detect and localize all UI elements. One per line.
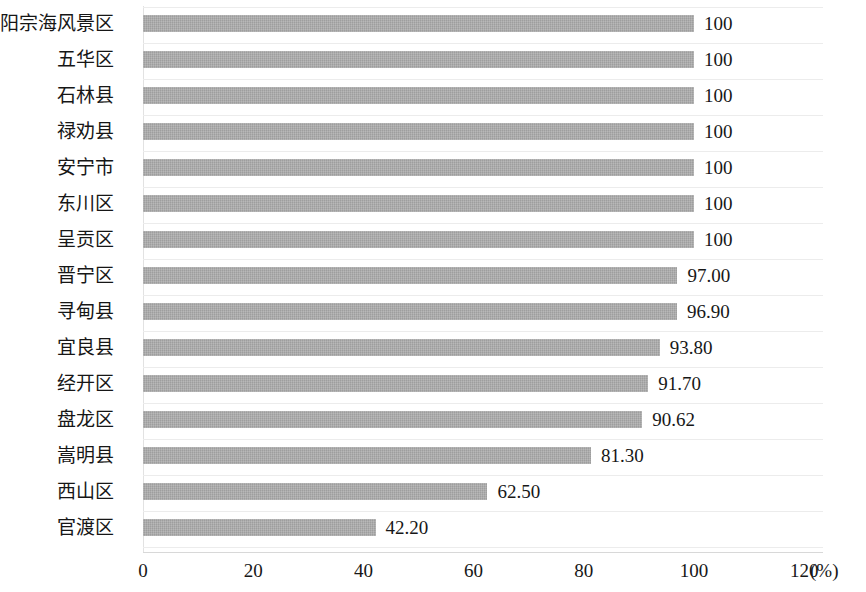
bar [143, 303, 677, 320]
plot-area: 阳宗海风景区100五华区100石林县100禄劝县100安宁市100东川区100呈… [143, 6, 843, 552]
category-label: 寻甸县 [57, 294, 114, 330]
bar [143, 87, 694, 104]
category-label: 官渡区 [57, 510, 114, 546]
bar [143, 267, 677, 284]
bar-row: 安宁市100 [143, 150, 843, 186]
bar-row: 晋宁区97.00 [143, 258, 843, 294]
bar-value-label: 91.70 [658, 366, 701, 402]
bar [143, 195, 694, 212]
horizontal-bar-chart: 阳宗海风景区100五华区100石林县100禄劝县100安宁市100东川区100呈… [0, 0, 866, 592]
bar-row: 盘龙区90.62 [143, 402, 843, 438]
bar-row: 阳宗海风景区100 [143, 6, 843, 42]
bar-value-label: 62.50 [497, 474, 540, 510]
x-axis-line [143, 552, 823, 553]
category-label: 五华区 [57, 42, 114, 78]
bar [143, 123, 694, 140]
x-tick-label: 40 [354, 560, 373, 582]
bar-value-label: 100 [704, 42, 733, 78]
bar-row: 东川区100 [143, 186, 843, 222]
category-label: 盘龙区 [57, 402, 114, 438]
category-label: 嵩明县 [57, 438, 114, 474]
bar-value-label: 100 [704, 114, 733, 150]
bar-row: 禄劝县100 [143, 114, 843, 150]
bar-value-label: 97.00 [687, 258, 730, 294]
bar [143, 339, 660, 356]
bar [143, 51, 694, 68]
bar [143, 231, 694, 248]
bar-row: 经开区91.70 [143, 366, 843, 402]
bar-row: 五华区100 [143, 42, 843, 78]
bar-row: 呈贡区100 [143, 222, 843, 258]
category-label: 经开区 [57, 366, 114, 402]
category-label: 石林县 [57, 78, 114, 114]
bar [143, 159, 694, 176]
bar-value-label: 100 [704, 6, 733, 42]
x-tick-label: 100 [680, 560, 709, 582]
bar [143, 411, 642, 428]
bar-row: 西山区62.50 [143, 474, 843, 510]
bar-row: 官渡区42.20 [143, 510, 843, 546]
bar-value-label: 93.80 [670, 330, 713, 366]
bar-value-label: 100 [704, 222, 733, 258]
bar-row: 石林县100 [143, 78, 843, 114]
bar-value-label: 81.30 [601, 438, 644, 474]
x-tick-label: 80 [574, 560, 593, 582]
x-tick-label: 20 [244, 560, 263, 582]
bar [143, 375, 648, 392]
gridline [143, 547, 823, 548]
bar-row: 宜良县93.80 [143, 330, 843, 366]
bar-value-label: 90.62 [652, 402, 695, 438]
bar [143, 519, 376, 536]
category-label: 阳宗海风景区 [0, 6, 114, 42]
bar-value-label: 100 [704, 78, 733, 114]
category-label: 禄劝县 [57, 114, 114, 150]
bar-value-label: 42.20 [386, 510, 429, 546]
bar [143, 15, 694, 32]
bar-row: 寻甸县96.90 [143, 294, 843, 330]
category-label: 宜良县 [57, 330, 114, 366]
bar [143, 483, 487, 500]
category-label: 安宁市 [57, 150, 114, 186]
x-axis-unit-label: (%) [810, 560, 838, 582]
bar-value-label: 96.90 [687, 294, 730, 330]
category-label: 晋宁区 [57, 258, 114, 294]
category-label: 呈贡区 [57, 222, 114, 258]
bar-value-label: 100 [704, 186, 733, 222]
x-tick-label: 0 [138, 560, 148, 582]
category-label: 东川区 [57, 186, 114, 222]
x-tick-label: 60 [464, 560, 483, 582]
bar-row: 嵩明县81.30 [143, 438, 843, 474]
bar [143, 447, 591, 464]
bar-value-label: 100 [704, 150, 733, 186]
category-label: 西山区 [57, 474, 114, 510]
